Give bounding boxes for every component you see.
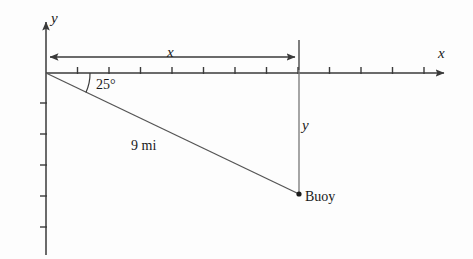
hypotenuse-length-label: 9 mi	[131, 139, 156, 153]
y-distance-label: y	[302, 118, 309, 133]
x-distance-label: x	[167, 45, 174, 60]
buoy-point	[296, 191, 301, 196]
x-axis-label: x	[438, 46, 445, 61]
y-axis-label: y	[51, 11, 58, 26]
x-dimension-line	[50, 40, 299, 70]
angle-arc	[86, 73, 90, 92]
figure-canvas: y x x 25° 9 mi y Buoy	[0, 0, 473, 259]
buoy-point-label: Buoy	[305, 190, 335, 204]
triangle-group	[46, 70, 302, 197]
diagram-svg	[0, 0, 473, 259]
hypotenuse-line	[46, 73, 299, 194]
angle-label: 25°	[96, 78, 116, 92]
